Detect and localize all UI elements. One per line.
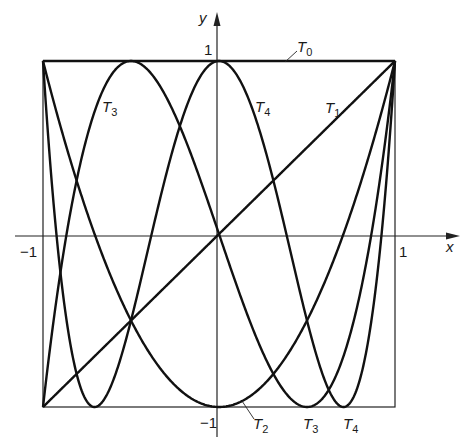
x-axis-label: x: [445, 238, 454, 255]
tick-x-neg1: −1: [20, 243, 37, 260]
label-t2-bottom: T2: [253, 415, 268, 435]
tick-x-pos1: 1: [399, 243, 407, 260]
label-t1: T1: [325, 99, 340, 119]
label-t4-top: T4: [255, 98, 270, 118]
tick-y-neg1: −1: [200, 414, 217, 431]
label-t3-bottom: T3: [303, 415, 318, 435]
label-t0: T0: [297, 38, 312, 58]
label-t4-bottom: T4: [343, 415, 358, 435]
tick-y-pos1: 1: [204, 41, 212, 58]
curves: [43, 61, 395, 407]
chebyshev-chart: y x −1 1 1 −1 T0 T1 T3 T4 T2 T3 T4: [0, 0, 468, 446]
label-t3-top: T3: [102, 98, 117, 118]
y-axis-label: y: [198, 9, 208, 26]
y-axis-arrow-icon: [214, 12, 221, 26]
